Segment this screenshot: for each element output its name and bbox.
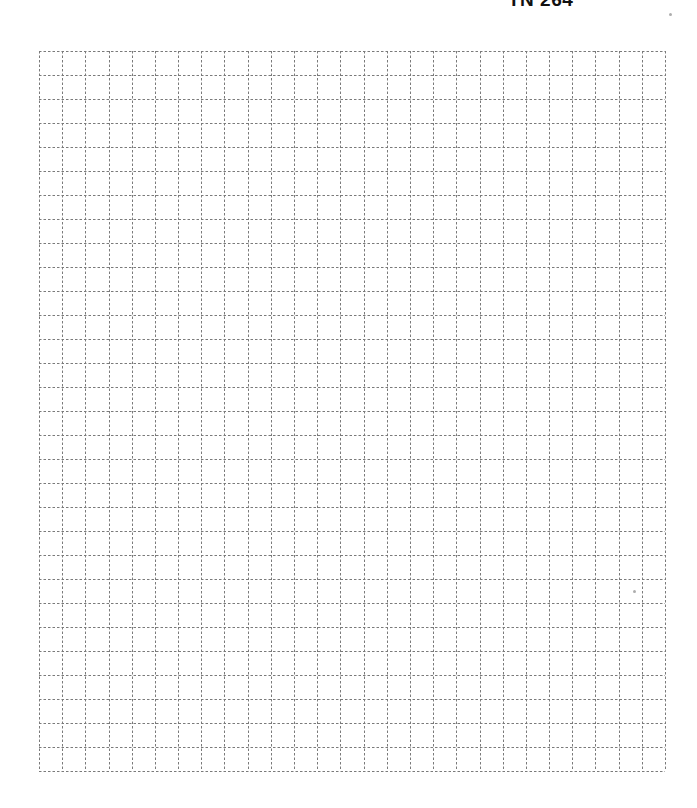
grid-lines [39, 51, 665, 771]
scan-speck [669, 13, 672, 16]
graph-paper-grid [39, 51, 665, 771]
page-header-label: TN 264 [508, 0, 573, 11]
scan-speck [633, 590, 636, 593]
